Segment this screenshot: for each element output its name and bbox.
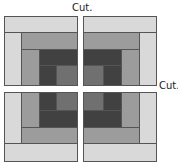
patch (121, 92, 140, 128)
patch (39, 49, 78, 66)
patch (103, 65, 122, 86)
patch (56, 65, 78, 86)
patch (139, 32, 157, 86)
patch (83, 110, 122, 128)
patch (83, 49, 122, 66)
patch (83, 16, 157, 33)
patch (21, 92, 40, 128)
patch (4, 32, 22, 86)
patch (21, 127, 78, 144)
cut-label-top: Cut. (72, 2, 92, 14)
patch (83, 92, 104, 111)
patch (83, 143, 157, 162)
patch (4, 92, 22, 144)
patch (121, 49, 140, 86)
patch (39, 110, 78, 128)
patch (39, 92, 57, 111)
patch (103, 92, 122, 111)
patch (4, 16, 78, 33)
patch (83, 65, 104, 86)
patch (83, 127, 140, 144)
patch (83, 32, 140, 50)
patch (56, 92, 78, 111)
patch (21, 49, 40, 86)
patch (21, 32, 78, 50)
patch (139, 92, 157, 144)
cut-label-right: Cut. (159, 80, 178, 92)
patch (39, 65, 57, 86)
patch (4, 143, 78, 162)
